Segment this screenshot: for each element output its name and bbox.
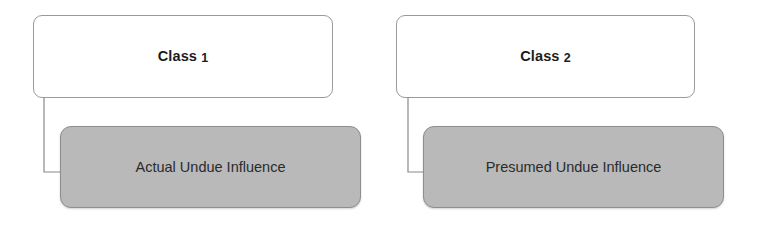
class-box-2[interactable]: Class 2 bbox=[396, 15, 695, 98]
class-box-2-label: Class 2 bbox=[520, 49, 570, 64]
influence-box-1[interactable]: Actual Undue Influence bbox=[60, 126, 361, 208]
influence-box-1-label: Actual Undue Influence bbox=[136, 160, 286, 175]
class-box-2-number: 2 bbox=[564, 51, 571, 65]
undue-influence-diagram: Class 1 Actual Undue Influence Class 2 P… bbox=[0, 0, 758, 227]
class-box-1-label: Class 1 bbox=[158, 49, 208, 64]
influence-box-2[interactable]: Presumed Undue Influence bbox=[423, 126, 724, 208]
class-box-1[interactable]: Class 1 bbox=[33, 15, 333, 98]
class-box-1-number: 1 bbox=[201, 51, 208, 65]
influence-box-2-label: Presumed Undue Influence bbox=[486, 160, 662, 175]
